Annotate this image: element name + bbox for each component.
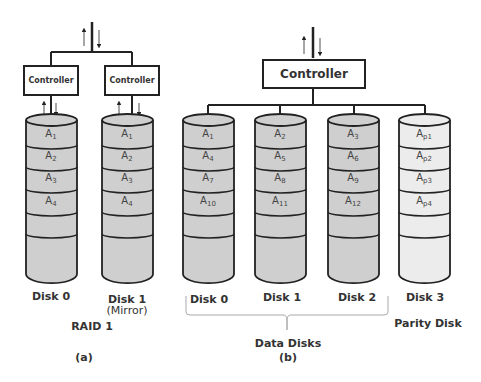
panel-a-caption: (a) — [75, 351, 92, 364]
data-disks-label: Data Disks — [255, 337, 321, 350]
block-label: A1 — [121, 128, 132, 141]
mirror-label: (Mirror) — [107, 304, 148, 317]
block-label: A6 — [347, 150, 358, 163]
panel-b-caption: (b) — [279, 351, 297, 364]
disk-label: Disk 1 — [263, 291, 301, 304]
raid1-title: RAID 1 — [71, 320, 113, 333]
parity-block-label: Ap2 — [416, 150, 432, 163]
block-label: A12 — [345, 195, 361, 208]
controller-box: Controller — [23, 65, 79, 96]
block-label: A3 — [347, 128, 358, 141]
block-label: A10 — [200, 195, 216, 208]
controller-box: Controller — [262, 59, 366, 89]
block-label: A1 — [45, 128, 56, 141]
block-label: A11 — [272, 195, 288, 208]
block-label: A5 — [274, 150, 285, 163]
block-label: A4 — [45, 195, 56, 208]
block-label: A8 — [274, 172, 285, 185]
block-label: A7 — [202, 172, 213, 185]
block-label: A1 — [202, 128, 213, 141]
block-label: A2 — [45, 150, 56, 163]
block-label: A9 — [347, 172, 358, 185]
block-label: A2 — [274, 128, 285, 141]
controller-box: Controller — [104, 65, 160, 96]
parity-block-label: Ap1 — [416, 128, 432, 141]
parity-block-label: Ap4 — [416, 195, 432, 208]
block-label: A2 — [121, 150, 132, 163]
parity-block-label: Ap3 — [416, 172, 432, 185]
disk-label: Disk 0 — [190, 293, 228, 306]
block-label: A3 — [45, 172, 56, 185]
block-label: A4 — [202, 150, 213, 163]
disk-label: Disk 2 — [338, 291, 376, 304]
disk-label: Disk 3 — [406, 291, 444, 304]
block-label: A3 — [121, 172, 132, 185]
block-label: A4 — [121, 195, 132, 208]
parity-disk-label: Parity Disk — [394, 317, 461, 330]
disk-label: Disk 0 — [32, 290, 70, 303]
